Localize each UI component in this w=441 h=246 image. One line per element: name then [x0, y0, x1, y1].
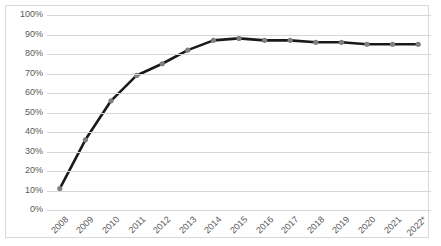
gridline — [47, 152, 431, 153]
data-point-marker — [236, 36, 241, 41]
data-point-marker — [83, 137, 88, 142]
data-point-marker — [364, 42, 369, 47]
y-axis-tick-label: 60% — [9, 88, 43, 97]
gridline — [47, 54, 431, 55]
data-point-marker — [211, 38, 216, 43]
y-axis-tick-label: 90% — [9, 30, 43, 39]
y-axis-tick-label: 10% — [9, 186, 43, 195]
data-point-marker — [339, 40, 344, 45]
gridline — [47, 171, 431, 172]
gridline — [47, 132, 431, 133]
y-axis-tick-label: 80% — [9, 49, 43, 58]
gridline — [47, 15, 431, 16]
gridline — [47, 191, 431, 192]
data-point-marker — [108, 98, 113, 103]
y-axis-tick-label: 20% — [9, 166, 43, 175]
plot-area — [47, 15, 431, 210]
data-point-marker — [262, 38, 267, 43]
chart-frame: 0%10%20%30%40%50%60%70%80%90%100% 200820… — [5, 5, 429, 238]
data-point-marker — [313, 40, 318, 45]
gridline — [47, 35, 431, 36]
y-axis-tick-label: 100% — [9, 10, 43, 19]
data-point-marker — [416, 42, 421, 47]
data-point-marker — [160, 61, 165, 66]
y-axis-tick-label: 50% — [9, 108, 43, 117]
data-point-marker — [288, 38, 293, 43]
gridline — [47, 113, 431, 114]
y-axis-tick-label: 70% — [9, 69, 43, 78]
y-axis-tick-label: 0% — [9, 205, 43, 214]
data-point-marker — [185, 48, 190, 53]
y-axis: 0%10%20%30%40%50%60%70%80%90%100% — [6, 15, 43, 210]
gridline — [47, 74, 431, 75]
x-axis: 2008200920102011201220132014201520162017… — [47, 211, 431, 246]
gridline — [47, 93, 431, 94]
y-axis-tick-label: 30% — [9, 147, 43, 156]
y-axis-tick-label: 40% — [9, 127, 43, 136]
data-point-marker — [390, 42, 395, 47]
